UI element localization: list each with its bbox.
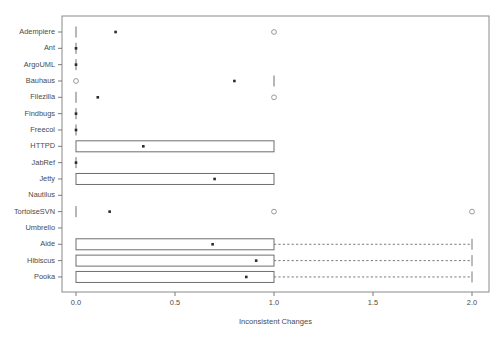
box-rect <box>76 271 274 282</box>
x-tick-label: 1.0 <box>269 298 279 307</box>
outlier-point <box>74 79 79 84</box>
x-tick-label: 0.5 <box>170 298 180 307</box>
y-tick-label: ArgoUML <box>24 60 55 69</box>
y-tick-label: Bauhaus <box>26 76 55 85</box>
median-marker <box>108 210 111 213</box>
median-marker <box>75 63 78 66</box>
y-tick-label: TortoiseSVN <box>14 207 55 216</box>
y-tick-label: JabRef <box>32 158 56 167</box>
y-tick-label: Ant <box>44 43 55 52</box>
plot-frame <box>62 16 489 292</box>
x-tick-label: 0.0 <box>71 298 81 307</box>
y-tick-label: Filezilla <box>30 92 56 101</box>
box-rect <box>76 239 274 250</box>
x-tick-label: 2.0 <box>467 298 477 307</box>
x-axis-title: Inconsistent Changes <box>239 317 312 326</box>
median-marker <box>75 129 78 132</box>
y-tick-label: Nautilus <box>28 190 55 199</box>
median-marker <box>211 243 214 246</box>
y-tick-label: Umbrello <box>25 223 55 232</box>
median-marker <box>75 47 78 50</box>
y-tick-label: Jetty <box>39 174 55 183</box>
median-marker <box>213 178 216 181</box>
y-tick-label: Findbugs <box>25 109 56 118</box>
outlier-point <box>272 95 277 100</box>
median-marker <box>96 96 99 99</box>
median-marker <box>75 112 78 115</box>
median-marker <box>233 80 236 83</box>
y-tick-label: HTTPD <box>30 141 55 150</box>
outlier-point <box>470 209 475 214</box>
y-tick-label: Freecol <box>30 125 55 134</box>
y-tick-label: Adempiere <box>19 27 55 36</box>
x-tick-label: 1.5 <box>368 298 378 307</box>
box-rect <box>76 173 274 184</box>
y-tick-label: Aide <box>40 239 55 248</box>
outlier-point <box>272 209 277 214</box>
box-rect <box>76 255 274 266</box>
y-tick-label: Hibiscus <box>27 256 55 265</box>
median-marker <box>114 31 117 34</box>
median-marker <box>255 259 258 262</box>
y-tick-label: Pooka <box>34 272 56 281</box>
boxplot-figure: 0.00.51.01.52.0Inconsistent ChangesAdemp… <box>0 0 501 338</box>
median-marker <box>75 161 78 164</box>
plot-canvas: 0.00.51.01.52.0Inconsistent ChangesAdemp… <box>0 0 501 338</box>
median-marker <box>142 145 145 148</box>
box-rect <box>76 141 274 152</box>
median-marker <box>245 276 248 279</box>
outlier-point <box>272 30 277 35</box>
